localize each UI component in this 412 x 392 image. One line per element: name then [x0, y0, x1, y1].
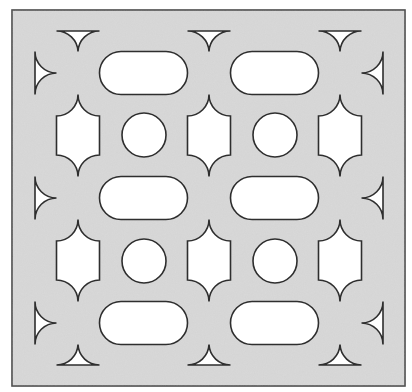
horizontal-cutout [231, 177, 319, 220]
horizontal-cutout [100, 177, 188, 220]
circle-cutout [253, 239, 297, 283]
circle-cutout [253, 113, 297, 157]
horizontal-cutout [231, 52, 319, 95]
horizontal-cutout [100, 52, 188, 95]
circle-cutout [122, 239, 166, 283]
lattice-svg [0, 0, 412, 392]
panel-texture [12, 10, 405, 386]
horizontal-cutout [100, 302, 188, 345]
circle-cutout [122, 113, 166, 157]
lattice-panel-diagram [0, 0, 412, 392]
horizontal-cutout [231, 302, 319, 345]
